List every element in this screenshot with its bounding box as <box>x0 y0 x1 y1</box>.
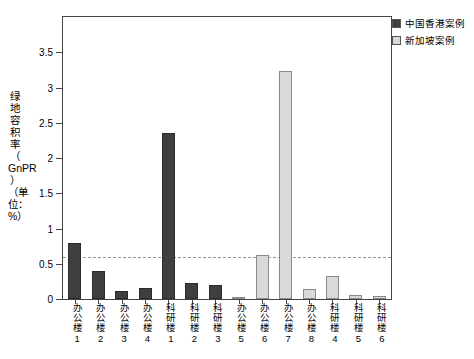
y-axis-tick-label: 2 <box>47 153 53 164</box>
x-axis-tick-label: 办公楼3 <box>115 303 129 344</box>
y-axis-tick <box>56 123 63 124</box>
x-axis-tick-label: 办公楼2 <box>91 303 105 344</box>
legend-item[interactable]: 中国香港案例 <box>392 18 465 29</box>
y-axis-tick-label: 3.5 <box>39 47 53 58</box>
bar <box>185 283 198 299</box>
y-axis-title-part-2: GnPR <box>8 162 22 174</box>
legend-item[interactable]: 新加坡案例 <box>392 35 465 46</box>
y-axis-tick <box>56 299 63 300</box>
bar <box>326 276 339 299</box>
y-axis-tick <box>56 264 63 265</box>
y-axis-tick-label: 0.5 <box>39 258 53 269</box>
y-axis-tick-label: 2.5 <box>39 117 53 128</box>
x-axis-tick-label: 办公楼8 <box>302 303 316 344</box>
x-axis-tick-label: 科研楼2 <box>185 303 199 344</box>
legend-swatch <box>392 19 401 28</box>
y-axis-tick <box>56 52 63 53</box>
bar <box>279 71 292 299</box>
x-axis-tick-label: 科研楼1 <box>161 303 175 344</box>
x-axis-tick-label: 办公楼1 <box>68 303 82 344</box>
bar <box>256 255 269 299</box>
bar <box>209 285 222 299</box>
plot-area: 00.511.522.533.5 <box>63 17 391 299</box>
y-axis-tick-label: 3 <box>47 82 53 93</box>
legend-label: 中国香港案例 <box>405 18 465 29</box>
x-axis-tick-label: 科研楼6 <box>372 303 386 344</box>
x-axis-tick-label: 科研楼4 <box>325 303 339 344</box>
x-axis-tick-label: 科研楼3 <box>208 303 222 344</box>
y-axis-tick <box>56 229 63 230</box>
y-axis-tick <box>56 193 63 194</box>
legend-label: 新加坡案例 <box>405 35 455 46</box>
x-axis-tick-label: 办公楼5 <box>232 303 246 344</box>
x-axis-tick-label: 办公楼7 <box>279 303 293 344</box>
x-axis-tick-label: 办公楼4 <box>138 303 152 344</box>
y-axis-tick-label: 1.5 <box>39 188 53 199</box>
y-axis-title-part-3: ）（单位：%） <box>8 174 22 222</box>
y-axis-tick <box>56 158 63 159</box>
x-axis-tick-label: 办公楼6 <box>255 303 269 344</box>
x-axis-tick-label: 科研楼5 <box>349 303 363 344</box>
legend-swatch <box>392 36 401 45</box>
y-axis-title: 绿地容积率（ GnPR ）（单位：%） <box>8 90 22 222</box>
y-axis-tick-label: 1 <box>47 223 53 234</box>
bar <box>92 271 105 299</box>
y-axis-tick <box>56 88 63 89</box>
bar <box>162 133 175 299</box>
threshold-line <box>63 257 391 258</box>
bar <box>303 289 316 299</box>
bar <box>115 291 128 299</box>
plot-frame: 00.511.522.533.5 <box>62 16 392 300</box>
chart-legend: 中国香港案例新加坡案例 <box>392 18 465 52</box>
bar <box>68 243 81 299</box>
bar <box>139 288 152 299</box>
y-axis-tick-label: 0 <box>47 294 53 305</box>
chart-figure: 绿地容积率（ GnPR ）（单位：%） 00.511.522.533.5 中国香… <box>0 0 474 359</box>
y-axis-title-part-1: 绿地容积率（ <box>8 90 22 162</box>
